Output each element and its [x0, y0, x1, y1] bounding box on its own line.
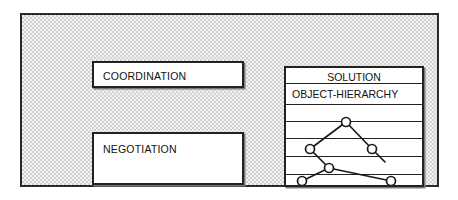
negotiation-box[interactable]: NEGOTIATION	[92, 132, 244, 185]
negotiation-label: NEGOTIATION	[103, 144, 177, 155]
solution-row-6	[286, 157, 422, 175]
coordination-label: COORDINATION	[103, 71, 186, 82]
outer-frame: COORDINATION NEGOTIATION SOLUTION OBJECT…	[20, 13, 439, 187]
solution-row-4	[286, 122, 422, 139]
solution-row-7	[286, 175, 422, 187]
figure-root: COORDINATION NEGOTIATION SOLUTION OBJECT…	[0, 0, 458, 200]
solution-row-5	[286, 139, 422, 157]
solution-row-title: SOLUTION	[286, 68, 422, 84]
solution-row-subtitle: OBJECT-HIERARCHY	[286, 84, 422, 105]
solution-row-3	[286, 105, 422, 122]
solution-title-label: SOLUTION	[286, 72, 422, 83]
object-hierarchy-label: OBJECT-HIERARCHY	[292, 89, 398, 100]
coordination-box[interactable]: COORDINATION	[92, 61, 244, 88]
solution-panel[interactable]: SOLUTION OBJECT-HIERARCHY	[284, 66, 424, 187]
